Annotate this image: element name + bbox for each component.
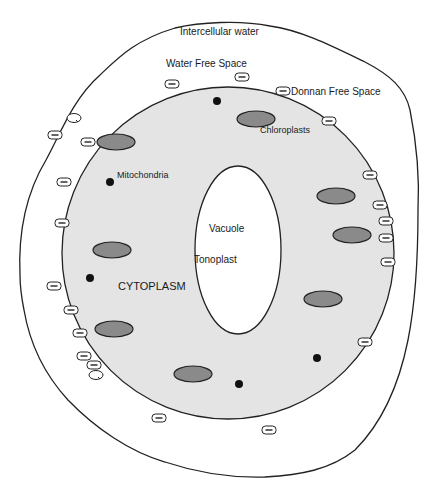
- chloroplast: [317, 188, 355, 204]
- label-mitochondria: Mitochondria: [117, 170, 169, 180]
- negative-charge-icon: [358, 338, 372, 346]
- vacuole: [195, 166, 281, 334]
- cell-diagram: Intercellular water Water Free Space Don…: [0, 0, 438, 488]
- negative-charge-icon: [262, 426, 276, 434]
- negative-charge-icon: [381, 258, 395, 266]
- negative-charge-icon: [64, 306, 78, 314]
- label-chloroplasts: Chloroplasts: [260, 125, 311, 135]
- mitochondrion: [313, 354, 321, 362]
- chloroplast: [93, 242, 131, 258]
- negative-charge-icon: [373, 201, 387, 209]
- chloroplast: [174, 366, 212, 382]
- negative-charge-icon: [47, 282, 61, 290]
- chloroplast: [95, 321, 133, 337]
- negative-charge-icon: [165, 80, 179, 88]
- negative-charge-icon: [379, 234, 393, 242]
- label-tonoplast: Tonoplast: [194, 254, 237, 265]
- negative-charge-icon: [379, 217, 393, 225]
- negative-charge-icon: [322, 117, 336, 125]
- negative-charge-icon: [48, 131, 62, 139]
- negative-charge-icon: [152, 414, 166, 422]
- negative-charge-icon: [276, 87, 290, 95]
- negative-charge-icon: [55, 219, 69, 227]
- label-donnan-free-space: Donnan Free Space: [291, 86, 381, 97]
- mitochondrion: [106, 178, 114, 186]
- negative-charge-icon: [81, 138, 95, 146]
- bound-ion-icon: [67, 114, 81, 123]
- negative-charge-icon: [57, 178, 71, 186]
- negative-charge-icon: [235, 73, 249, 81]
- bound-ion-icon: [89, 371, 103, 380]
- label-water-free-space: Water Free Space: [166, 58, 247, 69]
- chloroplast: [97, 134, 135, 150]
- negative-charge-icon: [77, 352, 91, 360]
- negative-charge-icon: [363, 171, 377, 179]
- label-vacuole: Vacuole: [209, 223, 245, 234]
- chloroplast: [304, 291, 342, 307]
- mitochondrion: [235, 380, 243, 388]
- negative-charge-icon: [73, 329, 87, 337]
- label-intercellular-water: Intercellular water: [180, 26, 260, 37]
- negative-charge-icon: [87, 361, 101, 369]
- mitochondrion: [213, 97, 221, 105]
- label-cytoplasm: CYTOPLASM: [118, 280, 186, 292]
- chloroplast: [333, 227, 371, 243]
- mitochondrion: [86, 274, 94, 282]
